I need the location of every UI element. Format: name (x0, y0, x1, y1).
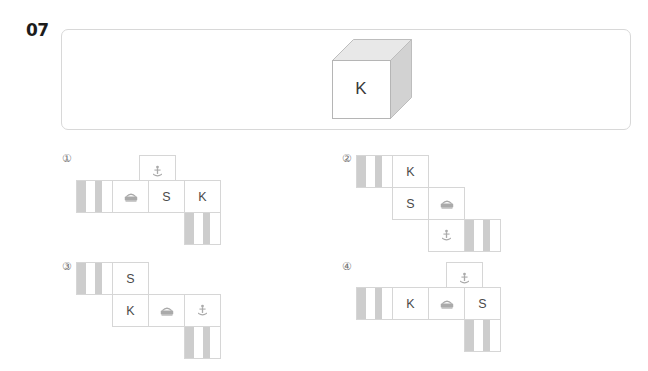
option-1-label: ① (59, 151, 75, 167)
option-3-cell-striped-top (76, 262, 113, 295)
telephone-icon (440, 198, 454, 210)
option-1-cell-striped-left (76, 180, 113, 213)
option-2-cell-k: K (392, 155, 429, 188)
cube-front-label: K (332, 60, 390, 118)
anchor-icon (458, 272, 471, 285)
cube-illustration: K (332, 39, 416, 121)
option-2-cell-striped-top (356, 155, 393, 188)
telephone-icon (160, 305, 174, 317)
question-number: 07 (26, 20, 49, 40)
option-3-cell-s: S (112, 262, 149, 295)
option-3-label: ③ (59, 259, 75, 275)
option-1-cell-striped-bottom (184, 212, 221, 245)
option-4-cell-k: K (392, 287, 429, 320)
anchor-icon (151, 165, 164, 178)
option-2-cell-striped-bottom (464, 219, 501, 252)
option-1-cell-phone (112, 180, 149, 213)
option-2-cell-phone (428, 187, 465, 220)
option-1-cell-s: S (148, 180, 185, 213)
telephone-icon (440, 298, 454, 310)
anchor-icon (440, 229, 453, 242)
option-4-cell-striped-left (356, 287, 393, 320)
option-2-cell-s: S (392, 187, 429, 220)
option-3-cell-k: K (112, 294, 149, 327)
option-3-cell-striped-bottom (184, 326, 221, 359)
option-4-cell-striped-bottom (464, 319, 501, 352)
prompt-panel: K (61, 29, 631, 130)
option-3-cell-anchor (184, 294, 221, 327)
option-1-cell-k: K (184, 180, 221, 213)
option-2-cell-anchor (428, 219, 465, 252)
option-2-label: ② (339, 151, 355, 167)
option-4-label: ④ (339, 259, 355, 275)
telephone-icon (124, 191, 138, 203)
option-3-cell-phone (148, 294, 185, 327)
option-4-cell-s: S (464, 287, 501, 320)
anchor-icon (196, 304, 209, 317)
option-4-cell-phone (428, 287, 465, 320)
